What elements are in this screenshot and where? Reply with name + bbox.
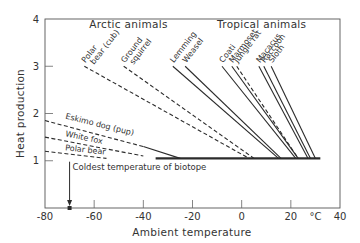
- y-tick-label: 2: [33, 108, 39, 119]
- annotation-marker: [68, 206, 72, 210]
- x-tick-label: -20: [184, 211, 200, 222]
- series-line: [143, 147, 180, 159]
- y-tick-label: 4: [33, 14, 39, 25]
- series-line: [271, 66, 315, 158]
- series-line: [237, 66, 298, 158]
- annotation-text: Coldest temperature of biotope: [73, 162, 207, 172]
- x-unit-label: °C: [309, 211, 321, 222]
- x-tick-label: -60: [86, 211, 102, 222]
- y-axis-title: Heat production: [14, 69, 26, 158]
- x-tick-label: 40: [334, 211, 347, 222]
- y-tick-label: 1: [33, 155, 39, 166]
- series-label: Groundsquirrel: [119, 32, 153, 69]
- y-tick-label: 3: [33, 61, 39, 72]
- series-line: [232, 66, 298, 158]
- group-title: Arctic animals: [89, 18, 167, 30]
- annotation-arrow-head: [67, 200, 72, 206]
- series-line: [84, 66, 249, 158]
- x-tick-label: -40: [135, 211, 151, 222]
- heat-production-chart: 1234-80-60-40-2002040°C Polarbear (cub)G…: [0, 0, 360, 243]
- x-axis-title: Ambient temperature: [132, 226, 251, 238]
- x-tick-label: 20: [284, 211, 297, 222]
- series-line: [264, 66, 311, 158]
- x-tick-label: 0: [238, 211, 244, 222]
- group-title: Tropical animals: [216, 18, 306, 30]
- x-tick-label: -80: [37, 211, 53, 222]
